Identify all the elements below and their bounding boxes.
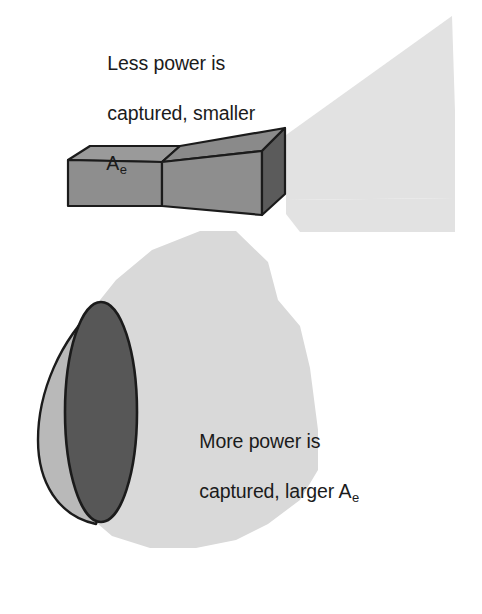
caption-dish-symbol: A <box>339 480 352 502</box>
figure-root: Less power is captured, smaller Ae More … <box>0 0 482 614</box>
caption-horn-symbol: A <box>106 152 119 174</box>
dish-aperture-face <box>65 302 137 522</box>
horn-beam-cone <box>286 16 455 200</box>
caption-horn-line2: captured, smaller <box>107 102 255 124</box>
caption-horn-antenna: Less power is captured, smaller Ae <box>86 26 255 203</box>
caption-dish-line2: captured, larger <box>199 480 338 502</box>
caption-horn-line1: Less power is <box>107 52 225 74</box>
horn-beam-cone-lower <box>286 198 455 232</box>
caption-dish-subscript: e <box>352 490 359 505</box>
caption-horn-subscript: e <box>120 162 127 177</box>
caption-dish-antenna: More power is captured, larger Ae <box>178 404 359 531</box>
caption-dish-line1: More power is <box>199 430 320 452</box>
